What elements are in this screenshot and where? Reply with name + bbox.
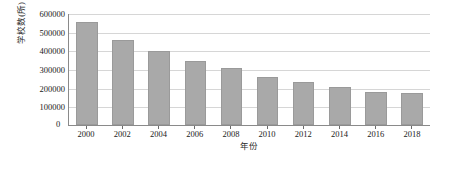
bar-slot [141,14,177,125]
bar[interactable] [257,77,279,125]
bar[interactable] [293,82,315,125]
y-axis-tick-label: 100000 [40,103,66,112]
bar[interactable] [185,61,207,125]
bars-container [69,14,430,125]
bar[interactable] [401,93,423,125]
bar-chart-figure: 学校数(所) 100000200000300000400000500000600… [0,0,464,176]
y-axis-origin-label: 0 [56,120,60,129]
bar[interactable] [365,92,387,125]
y-axis-tick-label: 400000 [40,47,66,56]
bar[interactable] [76,22,98,125]
bar-slot [394,14,430,125]
bar[interactable] [148,51,170,125]
x-axis-tick-label: 2012 [285,129,321,139]
x-axis-tick-label: 2018 [394,129,430,139]
bar-slot [213,14,249,125]
bar-slot [358,14,394,125]
x-axis-title: 年份 [68,141,430,152]
bar[interactable] [112,40,134,125]
x-axis-tick-label: 2000 [68,129,104,139]
bar[interactable] [221,68,243,125]
plot-area [68,14,430,126]
bar-slot [249,14,285,125]
x-axis-tick-label: 2008 [213,129,249,139]
bar-slot [105,14,141,125]
y-axis-tick-label: 200000 [40,84,66,93]
y-axis-tick-label: 300000 [40,66,66,75]
bar[interactable] [329,87,351,125]
y-axis-tick-label: 600000 [40,10,66,19]
x-axis-tick-labels: 2000200220042006200820102012201420162018 [68,129,430,139]
bar-slot [177,14,213,125]
x-axis-tick-label: 2002 [104,129,140,139]
y-axis-tick-labels: 100000200000300000400000500000600000 [24,14,68,126]
x-axis-tick-label: 2014 [321,129,357,139]
x-axis-tick-label: 2016 [358,129,394,139]
bar-slot [69,14,105,125]
x-axis-tick-label: 2010 [249,129,285,139]
bar-slot [286,14,322,125]
x-axis-tick-label: 2004 [140,129,176,139]
bar-slot [322,14,358,125]
x-axis-tick-label: 2006 [177,129,213,139]
y-axis-tick-label: 500000 [40,28,66,37]
